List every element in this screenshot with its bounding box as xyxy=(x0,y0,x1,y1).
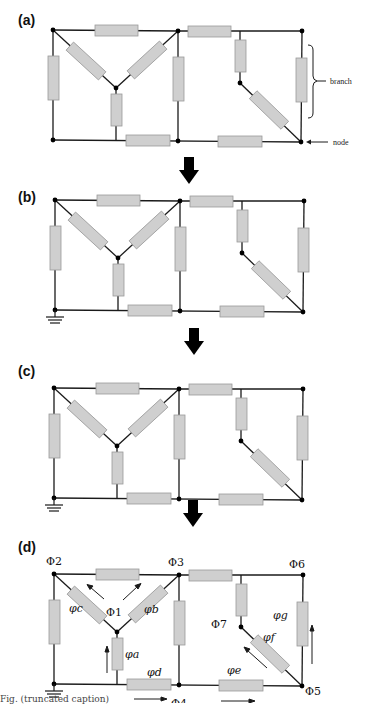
flux-label-a: φa xyxy=(125,648,139,661)
panel-d-circuit: Φ2 Φ3 Φ6 Φ1 Φ7 Φ4 Φ5 φc φb φa φd φe φf φ… xyxy=(45,555,321,703)
branch-annotation: branch xyxy=(330,77,352,86)
potential-label-phi1: Φ1 xyxy=(106,606,122,619)
transition-arrow-c-d xyxy=(183,500,203,527)
flux-label-c: φc xyxy=(69,602,83,615)
panel-c-circuit xyxy=(45,383,308,511)
potential-label-phi7: Φ7 xyxy=(211,618,227,631)
potential-label-phi6: Φ6 xyxy=(289,558,305,571)
potential-label-phi2: Φ2 xyxy=(46,555,62,568)
branch-bracket xyxy=(308,45,317,118)
figure-caption: Fig. (truncated caption) xyxy=(0,694,369,704)
flux-label-b: φb xyxy=(144,603,159,616)
flux-label-f: φf xyxy=(263,631,277,644)
transition-arrow-b-c xyxy=(184,328,204,355)
transition-arrow-a-b xyxy=(179,157,199,184)
flux-label-e: φe xyxy=(227,664,242,677)
potential-label-phi3: Φ3 xyxy=(168,556,184,569)
panel-a-circuit: branch node xyxy=(48,25,352,147)
flux-label-g: φg xyxy=(273,609,288,622)
ground-icon xyxy=(45,498,63,511)
flux-label-d: φd xyxy=(147,666,162,679)
ground-icon xyxy=(46,310,64,323)
panel-b-circuit-body xyxy=(46,195,309,323)
node-annotation: node xyxy=(333,138,349,147)
